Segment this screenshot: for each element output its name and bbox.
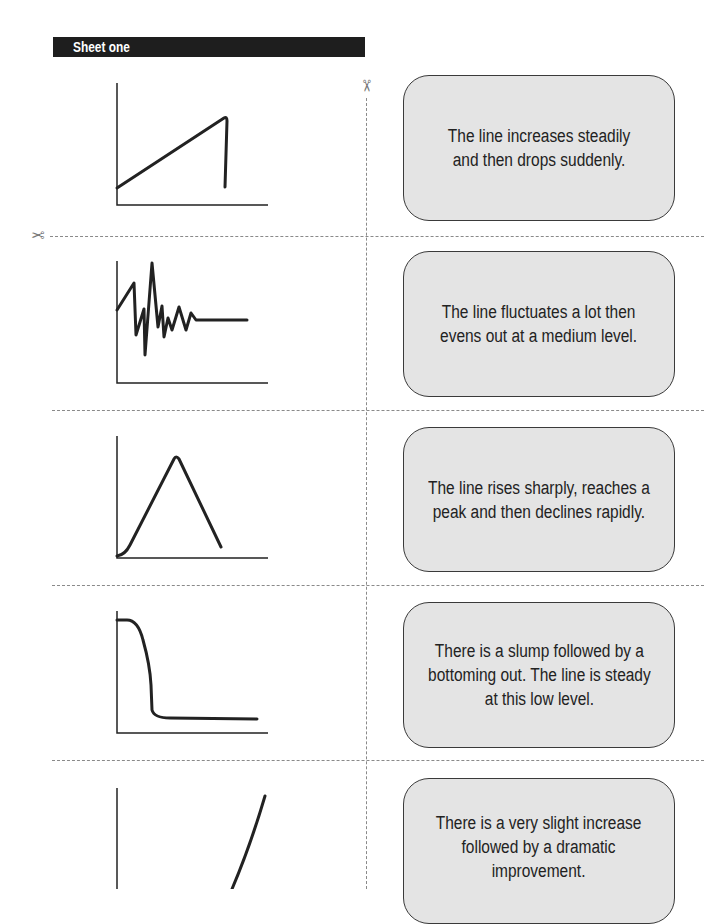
vertical-cut-line [366, 98, 367, 889]
line-graph-5 [110, 782, 280, 889]
card-text: The line increases steadily and then dro… [448, 124, 630, 172]
graph-line [117, 263, 247, 355]
scissors-icon-left: ✂ [31, 228, 44, 244]
horizontal-cut-line-4 [52, 760, 704, 761]
description-card-4[interactable]: There is a slump followed by a bottoming… [403, 602, 675, 748]
graph-line [232, 796, 265, 889]
graph-axes [117, 436, 268, 558]
graph-line [117, 620, 257, 719]
description-card-1[interactable]: The line increases steadily and then dro… [403, 75, 675, 221]
graph-line [117, 117, 227, 188]
card-text: There is a slump followed by a bottoming… [428, 639, 651, 711]
description-card-2[interactable]: The line fluctuates a lot then evens out… [403, 251, 675, 397]
sheet-title-bar: Sheet one [53, 37, 365, 57]
line-graph-2 [110, 255, 280, 390]
line-graph-4 [110, 605, 280, 740]
card-text: The line rises sharply, reaches a peak a… [428, 476, 650, 524]
horizontal-cut-line-2 [52, 410, 704, 411]
graph-axes [117, 83, 268, 205]
card-text: The line fluctuates a lot then evens out… [440, 300, 637, 348]
description-card-3[interactable]: The line rises sharply, reaches a peak a… [403, 427, 675, 572]
card-text: There is a very slight increase followed… [436, 811, 642, 883]
description-card-5[interactable]: There is a very slight increase followed… [403, 778, 675, 924]
horizontal-cut-line-1 [50, 236, 704, 237]
line-graph-3 [110, 428, 280, 563]
sheet-title: Sheet one [73, 37, 130, 57]
graph-line [117, 457, 221, 556]
line-graph-1 [110, 75, 280, 215]
horizontal-cut-line-3 [52, 585, 704, 586]
scissors-icon-top: ✂ [358, 79, 374, 92]
